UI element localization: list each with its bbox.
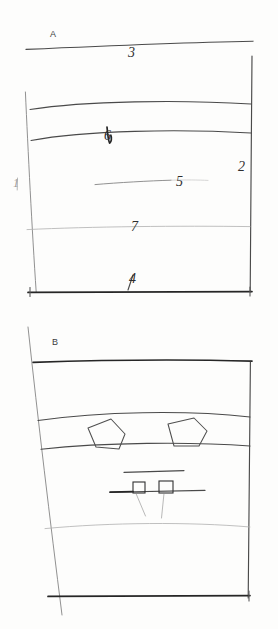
panel-b-polygon-right [168, 418, 207, 446]
panel-a-callout-1: 1 [13, 176, 19, 190]
panel-a-callout-5: 5 [176, 174, 183, 189]
panel-b-center-detail [110, 471, 205, 518]
panel-a-bottom-line [28, 292, 252, 293]
panel-a-horizon-5 [95, 180, 171, 184]
panel-b-horizon-lower [45, 523, 250, 528]
panel-a-callout-6: 6 [104, 128, 111, 143]
panel-a-left-line [25, 92, 36, 292]
panel-b-right-line [248, 362, 250, 598]
panel-a-letter: A [50, 29, 56, 39]
panel-b-bottom-line [48, 596, 250, 597]
panel-b-letter: B [52, 337, 58, 347]
panel-a: A 3 6 5 7 4 1 2 [13, 29, 253, 297]
panel-a-callout-2: 2 [238, 159, 245, 174]
detail-base-rule-thick [110, 492, 133, 493]
panel-b: B [28, 327, 252, 615]
panel-a-callout-4: 4 [129, 271, 136, 286]
panel-a-callout-3: 3 [127, 45, 135, 60]
detail-leader-left [136, 494, 146, 517]
panel-a-right-line [250, 56, 252, 292]
sketch-canvas: A 3 6 5 7 4 1 2 [0, 0, 278, 629]
panel-b-band-top [38, 413, 250, 421]
detail-upper-rule [124, 471, 184, 473]
panel-a-horizon-7 [27, 226, 250, 229]
panel-a-callout-7: 7 [131, 219, 139, 234]
panel-a-horizon-unlabelled [30, 102, 251, 110]
panel-b-top-line [33, 360, 252, 362]
panel-b-left-line [28, 327, 62, 615]
panel-a-horizon-6 [31, 131, 251, 141]
detail-leader-right [162, 494, 165, 519]
panel-b-band-base [41, 443, 250, 449]
figure-root: A 3 6 5 7 4 1 2 [0, 0, 278, 629]
panel-a-top-line [26, 41, 253, 49]
